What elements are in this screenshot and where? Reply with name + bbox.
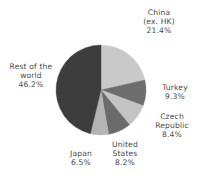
pie-slice-group [56,45,146,135]
pie-label-japan-line1: Japan [60,149,102,158]
pie-label-turkey-line1: Turkey [152,83,198,92]
pie-label-us-line2: States [104,149,146,158]
pie-label-china: China (ex. HK) 21.4% [126,8,192,36]
pie-label-czech-line2: Republic [150,121,194,130]
pie-label-china-line2: (ex. HK) [126,17,192,26]
pie-label-turkey: Turkey 9.3% [152,83,198,101]
pie-label-rest-of-world: Rest of the world 46.2% [2,62,60,90]
pie-chart: China (ex. HK) 21.4% Turkey 9.3% Czech R… [0,0,199,184]
pie-label-us-line1: United [104,140,146,149]
pie-label-rest-line2: world [2,71,60,80]
pie-label-china-line1: China [126,8,192,17]
pie-label-china-value: 21.4% [126,26,192,35]
pie-label-japan: Japan 6.5% [60,149,102,167]
pie-label-czech-line1: Czech [150,112,194,121]
pie-label-czech-value: 8.4% [150,130,194,139]
pie-label-czech-republic: Czech Republic 8.4% [150,112,194,140]
pie-label-japan-value: 6.5% [60,158,102,167]
pie-label-united-states: United States 8.2% [104,140,146,168]
pie-label-turkey-value: 9.3% [152,92,198,101]
pie-label-rest-value: 46.2% [2,80,60,89]
pie-label-rest-line1: Rest of the [2,62,60,71]
pie-label-us-value: 8.2% [104,158,146,167]
